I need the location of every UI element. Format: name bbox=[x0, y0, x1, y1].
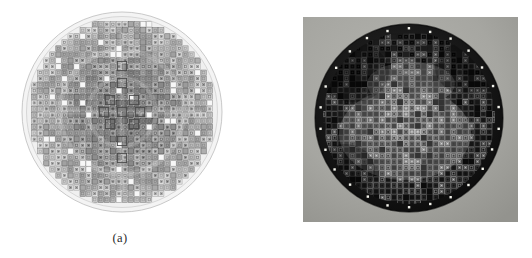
wafer-photograph-svg bbox=[303, 17, 518, 222]
wafer-schematic-svg bbox=[21, 11, 223, 213]
caption-a: (a) bbox=[0, 231, 266, 246]
figure-container: (a) bbox=[0, 0, 532, 258]
panel-b: (b) bbox=[266, 0, 532, 258]
caption-a-text: (a) bbox=[113, 231, 128, 245]
die-grid-schematic bbox=[32, 22, 213, 203]
wafer-schematic-diagram bbox=[21, 11, 223, 213]
panel-a: (a) bbox=[0, 0, 266, 258]
wafer-photograph bbox=[303, 17, 518, 222]
